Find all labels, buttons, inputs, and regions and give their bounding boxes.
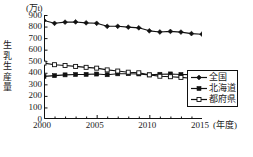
data-point-marker [179,75,183,79]
data-point-marker [52,21,57,26]
plot-area [44,15,202,119]
data-point-marker [197,98,201,102]
y-axis-title-char-3: 生 [2,61,13,72]
y-axis-tick-label: 700 [29,34,43,43]
data-point-marker [105,68,109,72]
data-point-marker [63,63,67,67]
data-point-marker [137,71,141,75]
data-point-marker [53,63,57,67]
data-point-marker [84,72,88,76]
legend-item-1[interactable]: 全国 [189,72,235,83]
data-point-marker [157,30,162,35]
data-point-marker [94,21,99,26]
y-axis-title: 生 乳 生 産 量 [2,40,13,93]
legend-label: 北海道 [209,84,235,93]
data-point-marker [115,24,120,29]
chart-canvas [44,15,202,119]
x-axis-tick-label: 2010 [138,121,156,130]
y-axis-tick-label: 600 [29,45,43,54]
data-point-marker [74,64,78,68]
legend-marker-icon [189,72,209,83]
series-1 [44,18,202,37]
data-point-marker [179,30,184,35]
y-axis-tick-label: 400 [29,68,43,77]
y-axis-title-char-5: 量 [2,82,13,93]
data-point-marker [63,20,68,25]
data-point-marker [74,73,78,77]
data-point-marker [197,75,202,80]
data-point-marker [116,69,120,73]
data-point-marker [84,20,89,25]
data-point-marker [136,25,141,30]
data-point-marker [158,74,162,78]
data-point-marker [126,25,131,30]
data-point-marker [95,72,99,76]
y-axis-tick-label: 100 [29,103,43,112]
data-point-marker [168,75,172,79]
legend-item-3[interactable]: 都府県 [189,94,235,105]
data-point-marker [44,61,46,65]
data-point-marker [84,65,88,69]
data-point-marker [147,73,151,77]
data-point-marker [105,73,109,77]
x-axis-tick-labels: 2000200520102015(年度) [0,121,253,135]
data-point-marker [147,28,152,33]
y-axis-tick-label: 500 [29,57,43,66]
data-point-marker [197,87,201,91]
data-point-marker [200,32,202,37]
chart-figure: (万t) 生 乳 生 産 量 9008007006005004003002001… [0,0,253,157]
y-axis-tick-label: 200 [29,91,43,100]
data-point-marker [95,66,99,70]
data-point-marker [105,24,110,29]
legend-item-2[interactable]: 北海道 [189,83,235,94]
data-point-marker [63,73,67,77]
data-point-marker [126,70,130,74]
y-axis-title-char-1: 生 [2,40,13,51]
data-point-marker [73,20,78,25]
y-axis-tick-label: 900 [29,11,43,20]
series-line [44,63,202,79]
y-axis-tick-label: 300 [29,80,43,89]
x-axis-tick-label: 2005 [86,121,104,130]
legend-label: 都府県 [209,95,235,104]
x-axis-tick-label: 2000 [33,121,51,130]
series-line [44,74,202,77]
series-3 [44,61,202,81]
legend-label: 全国 [209,73,227,82]
data-point-marker [44,18,46,23]
chart-legend: 全国北海道都府県 [187,70,238,107]
y-axis-title-char-2: 乳 [2,51,13,62]
x-axis-title: (年度) [213,121,237,130]
legend-marker-icon [189,83,209,94]
x-axis-tick-label: 2015 [191,121,209,130]
axis-lines [45,15,203,119]
y-axis-tick-label: 800 [29,22,43,31]
data-point-marker [189,31,194,36]
legend-marker-icon [189,94,209,105]
data-point-marker [53,74,57,78]
y-axis-title-char-4: 産 [2,72,13,83]
data-point-marker [168,29,173,34]
data-point-marker [44,74,46,78]
